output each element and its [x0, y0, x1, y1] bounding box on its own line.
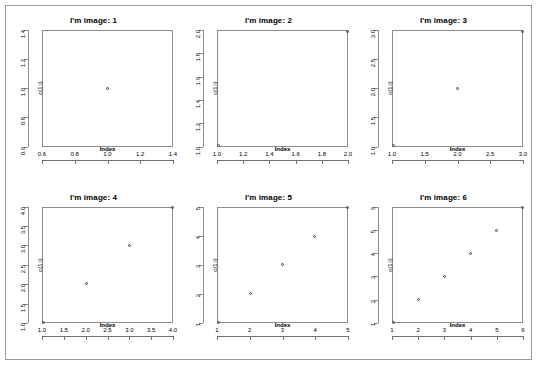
- plot-area: [392, 207, 523, 324]
- plot-device: I'm image: 10.60.81.01.21.4c(1:i)0.60.81…: [0, 0, 539, 367]
- y-tick-label: 3.5: [20, 226, 26, 234]
- x-tick: [497, 336, 498, 340]
- x-tick: [425, 160, 426, 164]
- data-point: [495, 229, 498, 232]
- x-tick: [315, 336, 316, 340]
- y-tick-label: 0.6: [20, 147, 26, 155]
- x-tick: [86, 336, 87, 340]
- y-tick-label: 1.5: [20, 304, 26, 312]
- plot-panel-4: I'm image: 41.01.52.02.53.03.54.0c(1:i)1…: [6, 183, 181, 360]
- x-axis: 1.01.21.41.61.82.0: [217, 160, 348, 161]
- x-tick: [392, 336, 393, 340]
- x-tick: [471, 336, 472, 340]
- data-point: [469, 252, 472, 255]
- y-tick-label: 2.5: [370, 59, 376, 67]
- x-axis: 1.01.52.02.53.0: [392, 160, 523, 161]
- y-tick-label: 4: [195, 236, 201, 239]
- y-tick-label: 1.8: [195, 53, 201, 61]
- x-tick: [348, 160, 349, 164]
- x-tick: [64, 336, 65, 340]
- x-tick: [151, 336, 152, 340]
- data-point: [521, 206, 524, 209]
- x-tick: [217, 336, 218, 340]
- y-tick-label: 3.0: [370, 30, 376, 38]
- y-tick-label: 1: [370, 323, 376, 326]
- x-axis-title: Index: [217, 146, 348, 152]
- panel-title: I'm image: 1: [6, 16, 181, 25]
- x-tick: [348, 336, 349, 340]
- plot-area: [42, 207, 173, 324]
- y-tick-label: 6: [370, 207, 376, 210]
- y-tick-label: 1.2: [195, 123, 201, 131]
- data-point: [313, 235, 316, 238]
- x-axis: 12345: [217, 336, 348, 337]
- x-tick: [296, 160, 297, 164]
- y-axis: 1.01.21.41.61.82.0: [203, 30, 204, 147]
- data-point: [417, 298, 420, 301]
- x-axis: 0.60.81.01.21.4: [42, 160, 173, 161]
- y-tick-label: 3: [370, 276, 376, 279]
- y-axis: 1.01.52.02.53.03.54.0: [28, 207, 29, 324]
- plot-panel-3: I'm image: 31.01.52.02.53.0c(1:i)1.01.52…: [356, 6, 531, 183]
- x-tick: [140, 160, 141, 164]
- x-tick: [490, 160, 491, 164]
- x-tick: [217, 160, 218, 164]
- y-tick-label: 1.0: [20, 323, 26, 331]
- plot-area: [217, 207, 348, 324]
- y-tick-label: 2.5: [20, 265, 26, 273]
- x-axis-title: Index: [42, 146, 173, 152]
- y-axis: 0.60.81.01.21.4: [28, 30, 29, 147]
- plot-panel-2: I'm image: 21.01.21.41.61.82.0c(1:i)1.01…: [181, 6, 356, 183]
- x-axis: 123456: [392, 336, 523, 337]
- plot-panel-5: I'm image: 512345c(1:i)12345Index: [181, 183, 356, 360]
- x-axis: 1.01.52.02.53.03.54.0: [42, 336, 173, 337]
- plot-panel-6: I'm image: 6123456c(1:i)123456Index: [356, 183, 531, 360]
- panel-title: I'm image: 2: [181, 16, 356, 25]
- x-tick: [75, 160, 76, 164]
- x-tick: [418, 336, 419, 340]
- data-point: [346, 30, 349, 33]
- y-tick-label: 2.0: [370, 88, 376, 96]
- data-point: [456, 87, 459, 90]
- data-point: [521, 30, 524, 33]
- y-tick-label: 2.0: [20, 284, 26, 292]
- panel-title: I'm image: 5: [181, 193, 356, 202]
- x-tick: [108, 160, 109, 164]
- y-tick-label: 4: [370, 253, 376, 256]
- y-tick-label: 2: [370, 300, 376, 303]
- y-tick-label: 3: [195, 265, 201, 268]
- x-tick: [42, 160, 43, 164]
- y-tick-label: 1.2: [20, 59, 26, 67]
- x-tick: [108, 336, 109, 340]
- panel-title: I'm image: 4: [6, 193, 181, 202]
- x-tick: [173, 336, 174, 340]
- data-point: [249, 292, 252, 295]
- x-tick: [444, 336, 445, 340]
- data-point: [128, 244, 131, 247]
- x-tick: [458, 160, 459, 164]
- data-point: [171, 206, 174, 209]
- plot-area: [42, 30, 173, 147]
- x-tick: [243, 160, 244, 164]
- y-tick-label: 1.5: [370, 117, 376, 125]
- y-tick-label: 1.0: [20, 88, 26, 96]
- data-point: [106, 87, 109, 90]
- panel-grid: I'm image: 10.60.81.01.21.4c(1:i)0.60.81…: [6, 6, 531, 359]
- x-tick: [283, 336, 284, 340]
- y-tick-label: 0.8: [20, 117, 26, 125]
- y-tick-label: 1.0: [195, 147, 201, 155]
- y-tick-label: 5: [195, 207, 201, 210]
- plot-area: [217, 30, 348, 147]
- data-point: [85, 282, 88, 285]
- y-tick-label: 3.0: [20, 245, 26, 253]
- x-tick: [392, 160, 393, 164]
- x-tick: [173, 160, 174, 164]
- data-point: [281, 263, 284, 266]
- y-tick-label: 1.4: [195, 100, 201, 108]
- y-axis: 123456: [378, 207, 379, 324]
- y-tick-label: 1: [195, 323, 201, 326]
- y-tick-label: 4.0: [20, 207, 26, 215]
- panel-title: I'm image: 6: [356, 193, 531, 202]
- x-tick: [523, 336, 524, 340]
- y-tick-label: 1.0: [370, 147, 376, 155]
